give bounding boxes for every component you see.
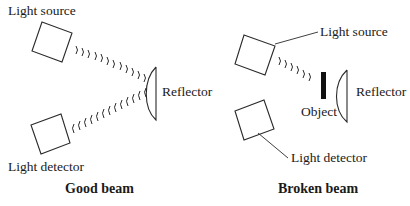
- object-label: Object: [301, 104, 337, 119]
- object-block: [321, 72, 326, 99]
- good-reflector-icon: [146, 67, 156, 120]
- good-beam-panel: Light source Reflector: [8, 3, 213, 196]
- good-return-wave-icon: [73, 88, 147, 133]
- broken-beam-caption: Broken beam: [278, 181, 359, 196]
- beam-diagram: Light source Reflector: [0, 0, 410, 206]
- good-light-detector-box: [31, 114, 70, 154]
- broken-light-detector-label: Light detector: [291, 150, 368, 165]
- broken-light-detector-leader: [258, 133, 288, 158]
- broken-light-source-label: Light source: [320, 24, 388, 39]
- broken-outgoing-wave-icon: [279, 57, 311, 81]
- good-reflector-label: Reflector: [162, 84, 213, 99]
- broken-light-source-box: [235, 35, 275, 75]
- good-light-source-box: [32, 22, 72, 62]
- broken-reflector-label: Reflector: [356, 84, 407, 99]
- broken-beam-panel: Light source Object Reflector Light dete…: [235, 24, 407, 196]
- good-light-source-label: Light source: [8, 3, 76, 18]
- good-light-detector-label: Light detector: [8, 159, 85, 174]
- good-outgoing-wave-icon: [76, 46, 146, 82]
- broken-light-detector-box: [235, 100, 274, 140]
- broken-light-source-leader: [275, 32, 318, 44]
- broken-reflector-icon: [337, 70, 348, 122]
- good-beam-caption: Good beam: [65, 181, 134, 196]
